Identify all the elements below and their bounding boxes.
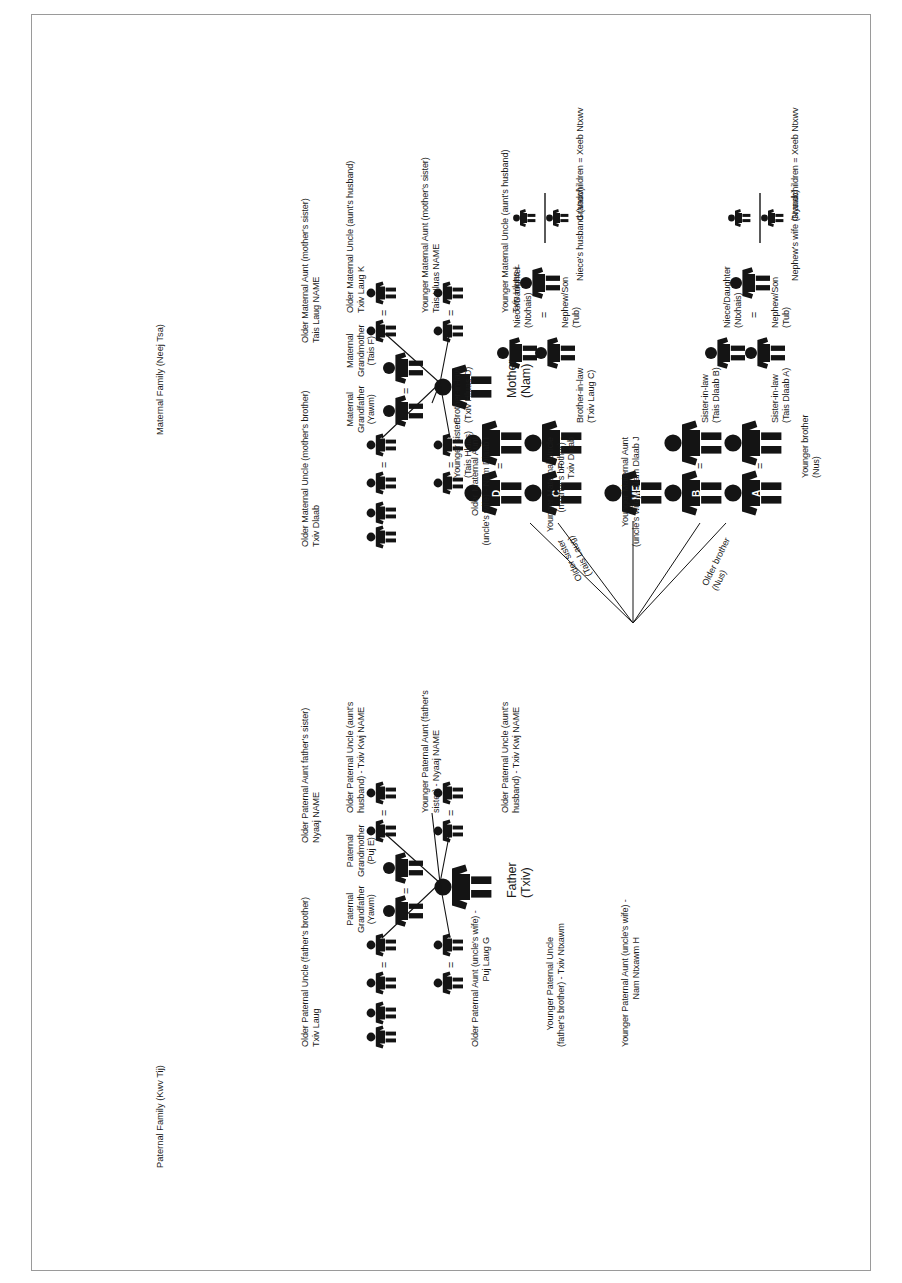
label-older-maternal-aunt: Older Maternal Aunt (mother's sister) Ta… [300,198,321,343]
label-maternal-grandmother: Maternal Grandmother (Tais F) [345,325,377,377]
label-father: Father (Txiv) [505,862,533,898]
marriage-symbol: = [538,312,550,318]
label-younger-paternal-uncle: Younger Paternal Uncle (father's brother… [545,937,566,1047]
label-nephew-son-right: Nephew/Son (Tub) [560,277,581,328]
marriage-symbol: = [694,463,706,469]
label-mother: Mother (Nam) [505,360,533,398]
marriage-symbol: = [378,310,390,316]
label-older-maternal-uncle-aunts-husband: Older Maternal Uncle (aunt's husband) Tx… [345,161,366,313]
label-paternal-grandmother: Paternal Grandmother (Puj E) [345,825,377,877]
label-maternal-grandfather: Maternal Grandfather (Yawm) [345,386,377,433]
diagram-graphics [0,0,902,1283]
label-younger-paternal-uncle-aunts-husband: Older Paternal Uncle (aunt's husband) - … [500,702,521,813]
label-older-paternal-aunt: Older Paternal Aunt father's sister) Nya… [300,708,321,843]
marriage-symbol: = [400,388,412,394]
marriage-symbol: = [494,463,506,469]
spouse-tag-b: B [692,490,703,497]
label-paternal-grandfather: Paternal Grandfather (Yawm) [345,886,377,933]
label-grandchildren-left: Grandchildren = Xeeb Ntxwv [790,108,801,221]
marriage-symbol: = [748,312,760,318]
label-sister-in-law-b: Sister-in-law (Tais Dlaab B) [700,367,721,423]
label-younger-paternal-aunt: Younger Paternal Aunt (father's sister) … [420,690,441,813]
marriage-symbol: = [400,888,412,894]
label-nephew-son-left: Nephew/Son (Tub) [770,277,791,328]
marriage-symbol: = [378,810,390,816]
label-grandchildren-right: Grandchildren = Xeeb Ntxwv [575,108,586,221]
marriage-symbol: = [378,962,390,968]
spouse-tag-a: A [752,490,763,497]
marriage-symbol: = [378,462,390,468]
marriage-symbol: = [445,310,457,316]
label-niece-daughter-right: Niece/Daughter (Ntxhais) [512,266,533,328]
marriage-symbol: = [754,463,766,469]
label-younger-maternal-aunt: Younger Maternal Aunt (mother's sister) … [420,157,441,313]
label-older-maternal-uncle: Older Maternal Uncle (mother's brother) … [300,390,321,547]
label-younger-maternal-uncle: Younger Maternal Uncle (mother's brother… [545,437,577,547]
label-older-paternal-uncle-aunts-husband: Older Paternal Uncle (aunt's husband) - … [345,702,366,813]
label-brother-in-law-c: Brother-in-law (Txiv Laug C) [575,368,596,423]
label-younger-sister: Younger sister (Tais Hluas) [452,422,473,478]
label-younger-brother: Younger brother (Nus) [800,415,821,478]
label-sister-in-law-a: Sister-in-law (Tais Dlaab A) [770,368,791,423]
label-older-paternal-uncle: Older Paternal Uncle (father's brother) … [300,897,321,1047]
marriage-symbol: = [445,810,457,816]
label-brother-in-law-d: Brother-in-law (Txiv Hluas D) [452,367,473,423]
label-younger-paternal-aunt-uncles-wife: Younger Paternal Aunt (uncle's wife) - N… [620,937,641,1047]
label-younger-maternal-aunt-uncles-wife: Younger Maternal Aunt (uncle's wife) - N… [620,437,641,547]
label-older-paternal-aunt-uncles-wife: Older Paternal Aunt (uncle's wife) - Puj… [470,937,491,1047]
spouse-tag-d: D [492,490,503,497]
marriage-symbol: = [445,962,457,968]
scanned-page: Paternal Family (Kwv Tij) Maternal Famil… [0,0,902,1283]
kinship-diagram: Paternal Family (Kwv Tij) Maternal Famil… [0,0,902,1283]
label-niece-daughter-left: Niece/Daughter (Ntxhais) [722,266,743,328]
